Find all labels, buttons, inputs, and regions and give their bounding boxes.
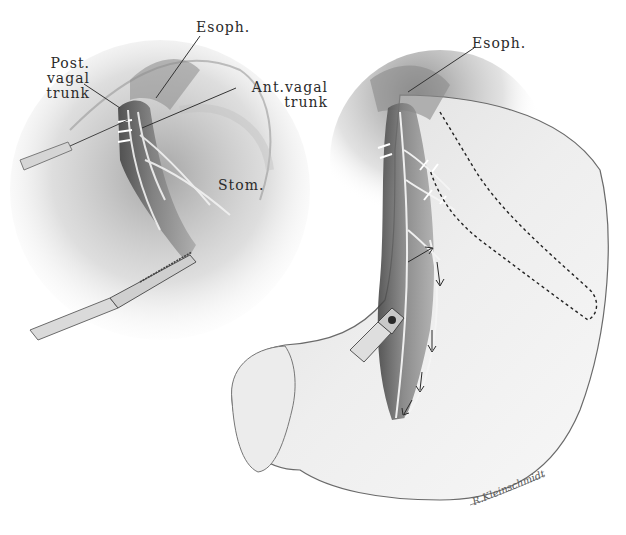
label-post-line-3: trunk xyxy=(30,86,90,101)
label-ant-line-1: Ant.vagal xyxy=(236,80,328,95)
label-posterior-vagal-trunk: Post. vagal trunk xyxy=(30,56,90,101)
label-ant-line-2: trunk xyxy=(236,95,328,110)
label-stomach: Stom. xyxy=(218,178,264,193)
label-post-line-1: Post. xyxy=(30,56,90,71)
label-esophagus-right: Esoph. xyxy=(472,36,526,51)
label-anterior-vagal-trunk: Ant.vagal trunk xyxy=(236,80,328,110)
surgical-illustration: Esoph. Post. vagal trunk Ant.vagal trunk… xyxy=(0,0,626,535)
label-esophagus-left: Esoph. xyxy=(196,20,250,35)
label-post-line-2: vagal xyxy=(30,71,90,86)
